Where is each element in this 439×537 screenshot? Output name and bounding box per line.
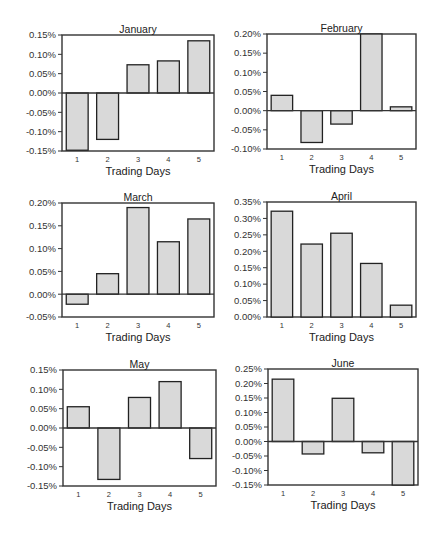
bar-day-2 — [301, 244, 322, 317]
y-tick-label: 0.10% — [235, 407, 262, 418]
bar-day-3 — [128, 397, 150, 428]
monthly-returns-figure: 0.15%0.10%0.05%0.00%-0.05%-0.10%-0.15%12… — [0, 0, 439, 537]
y-tick-label: 0.00% — [29, 87, 56, 98]
chart-title: January — [119, 23, 157, 35]
x-axis-label: Trading Days — [107, 500, 173, 512]
x-tick-label: 4 — [168, 490, 172, 499]
x-tick-label: 2 — [107, 490, 111, 499]
y-tick-label: 0.15% — [234, 262, 261, 273]
y-tick-label: 0.05% — [235, 421, 262, 432]
y-tick-label: -0.10% — [231, 143, 262, 154]
bar-day-1 — [272, 379, 294, 441]
bar-day-5 — [190, 428, 212, 459]
y-tick-label: -0.15% — [232, 479, 263, 490]
y-tick-label: 0.10% — [234, 67, 261, 78]
bar-day-5 — [390, 305, 411, 317]
y-tick-label: 0.35% — [234, 196, 261, 207]
y-tick-label: 0.10% — [29, 243, 56, 254]
x-tick-label: 3 — [136, 155, 140, 164]
x-tick-label: 1 — [280, 153, 284, 162]
y-tick-label: 0.10% — [30, 384, 57, 395]
y-tick-label: 0.20% — [234, 28, 261, 39]
x-tick-label: 3 — [137, 490, 141, 499]
x-tick-label: 5 — [197, 321, 201, 330]
y-tick-label: 0.05% — [29, 68, 56, 79]
bar-day-5 — [392, 442, 414, 486]
y-tick-label: 0.30% — [234, 213, 261, 224]
x-axis-label: Trading Days — [309, 163, 375, 175]
chart-title: March — [123, 191, 152, 203]
x-tick-label: 1 — [76, 490, 80, 499]
y-tick-label: 0.15% — [235, 392, 262, 403]
chart-title: April — [331, 190, 352, 202]
x-tick-label: 1 — [75, 155, 79, 164]
y-tick-label: 0.10% — [234, 278, 261, 289]
bar-day-3 — [331, 111, 352, 124]
y-tick-label: 0.00% — [234, 105, 261, 116]
bar-day-1 — [271, 95, 292, 110]
y-tick-label: 0.20% — [235, 378, 262, 389]
bar-day-4 — [157, 61, 179, 93]
x-tick-label: 3 — [339, 321, 343, 330]
y-tick-label: -0.05% — [26, 107, 57, 118]
x-tick-label: 4 — [369, 153, 373, 162]
x-tick-label: 5 — [399, 153, 403, 162]
x-tick-label: 5 — [199, 490, 203, 499]
y-tick-label: 0.20% — [234, 246, 261, 257]
bar-day-2 — [302, 442, 324, 454]
y-tick-label: -0.05% — [231, 124, 262, 135]
x-tick-label: 4 — [166, 321, 170, 330]
bar-day-3 — [127, 208, 149, 295]
x-tick-label: 4 — [369, 321, 373, 330]
y-tick-label: -0.05% — [27, 442, 58, 453]
x-tick-label: 3 — [341, 489, 345, 498]
y-tick-label: 0.10% — [29, 49, 56, 60]
y-tick-label: 0.25% — [235, 363, 262, 374]
y-tick-label: -0.10% — [232, 465, 263, 476]
chart-february: 0.20%0.15%0.10%0.05%0.00%-0.05%-0.10%123… — [231, 22, 416, 175]
x-tick-label: 3 — [136, 321, 140, 330]
bar-day-5 — [188, 219, 210, 294]
chart-january: 0.15%0.10%0.05%0.00%-0.05%-0.10%-0.15%12… — [26, 23, 214, 177]
x-tick-label: 1 — [280, 321, 284, 330]
x-tick-label: 3 — [339, 153, 343, 162]
x-tick-label: 2 — [310, 321, 314, 330]
bar-day-1 — [271, 211, 292, 317]
x-tick-label: 4 — [166, 155, 170, 164]
x-tick-label: 2 — [106, 155, 110, 164]
y-tick-label: 0.05% — [234, 295, 261, 306]
y-tick-label: -0.15% — [27, 480, 58, 491]
y-tick-label: -0.05% — [26, 311, 57, 322]
plot-frame — [267, 34, 416, 149]
x-tick-label: 2 — [106, 321, 110, 330]
y-tick-label: -0.15% — [26, 145, 57, 156]
bar-day-5 — [188, 41, 210, 93]
x-tick-label: 1 — [75, 321, 79, 330]
y-tick-label: 0.00% — [235, 436, 262, 447]
x-axis-label: Trading Days — [105, 165, 171, 177]
y-tick-label: 0.05% — [29, 266, 56, 277]
bar-day-2 — [97, 93, 119, 139]
bar-day-4 — [361, 263, 382, 317]
y-tick-label: 0.20% — [29, 197, 56, 208]
bar-day-1 — [67, 407, 89, 428]
bar-day-4 — [362, 442, 384, 453]
y-tick-label: -0.05% — [232, 450, 263, 461]
y-tick-label: -0.10% — [26, 126, 57, 137]
x-tick-label: 4 — [371, 489, 375, 498]
chart-title: June — [332, 357, 355, 369]
bar-day-3 — [331, 233, 352, 317]
y-tick-label: 0.00% — [30, 422, 57, 433]
x-tick-label: 2 — [311, 489, 315, 498]
x-tick-label: 1 — [281, 489, 285, 498]
bar-day-2 — [97, 274, 119, 295]
bar-day-3 — [332, 398, 354, 441]
x-tick-label: 5 — [197, 155, 201, 164]
bar-day-4 — [361, 34, 382, 111]
bar-day-1 — [66, 93, 88, 150]
y-tick-label: 0.00% — [29, 289, 56, 300]
x-axis-label: Trading Days — [310, 499, 376, 511]
y-tick-label: 0.15% — [30, 364, 57, 375]
bar-day-2 — [301, 111, 322, 143]
y-tick-label: 0.05% — [30, 403, 57, 414]
